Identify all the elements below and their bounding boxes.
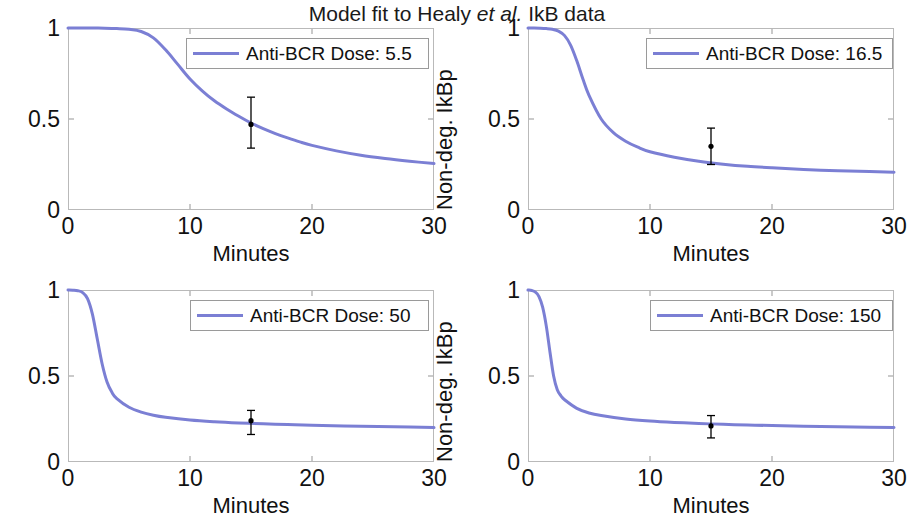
y-axis-label: Non-deg. IkBp xyxy=(432,321,458,462)
data-point-marker xyxy=(708,423,713,428)
data-point-errorbar xyxy=(707,416,715,438)
legend-box: Anti-BCR Dose: 150 xyxy=(650,300,893,331)
x-tick-label: 20 xyxy=(759,465,785,492)
x-tick-label: 30 xyxy=(881,465,907,492)
y-tick-label: 0 xyxy=(466,449,520,476)
x-tick-label: 0 xyxy=(522,465,535,492)
y-tick-label: 0.5 xyxy=(466,363,520,390)
legend-line-swatch xyxy=(657,314,703,317)
legend-label: Anti-BCR Dose: 150 xyxy=(710,306,881,325)
subplot-panel-dose-150: 00.510102030MinutesNon-deg. IkBpAnti-BCR… xyxy=(0,0,914,523)
x-tick-label: 10 xyxy=(637,465,663,492)
figure-root: Model fit to Healy et al. IkB data 00.51… xyxy=(0,0,914,523)
y-tick-label: 1 xyxy=(466,277,520,304)
x-axis-label: Minutes xyxy=(672,493,749,519)
